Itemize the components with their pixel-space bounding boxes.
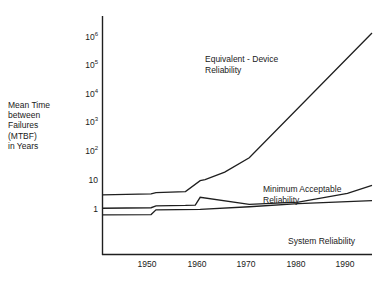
y-tick-1e2: 102 (72, 146, 98, 156)
y-tick-1: 1 (72, 204, 98, 214)
x-tick-1970: 1970 (231, 259, 261, 269)
x-tick-1990: 1990 (330, 259, 360, 269)
y-axis-label: Mean Time between Failures (MTBF) in Yea… (8, 100, 78, 151)
x-tick-1960: 1960 (182, 259, 212, 269)
x-tick-1980: 1980 (281, 259, 311, 269)
y-tick-1e4: 104 (72, 89, 98, 99)
annotation-equivalent-device: Equivalent - Device Reliability (205, 54, 278, 75)
y-tick-1e5: 105 (72, 60, 98, 70)
annotation-system-reliability: System Reliability (288, 236, 355, 247)
y-tick-1e6: 106 (72, 32, 98, 42)
y-tick-1e3: 103 (72, 117, 98, 127)
annotation-minimum-acceptable: Minimum Acceptable Reliability (263, 184, 341, 205)
chart-figure: Mean Time between Failures (MTBF) in Yea… (0, 0, 390, 284)
y-tick-10: 10 (72, 175, 98, 185)
x-tick-1950: 1950 (132, 259, 162, 269)
